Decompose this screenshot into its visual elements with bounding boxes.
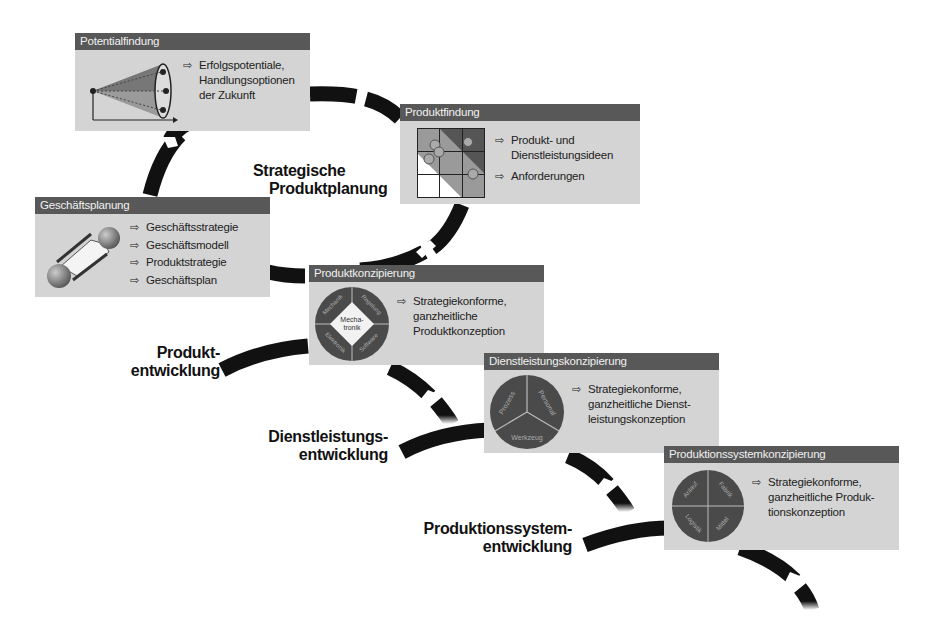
box-title: Geschäftsplanung xyxy=(35,197,270,214)
item-text: Handlungsoptionen xyxy=(199,73,295,88)
item-text: tionskonzeption xyxy=(768,505,845,520)
item-text: der Zukunft xyxy=(199,88,255,103)
box-produktfindung: Produktfindung ⇨Produkt- und Di xyxy=(400,104,640,204)
phase-label-dienstleistungsentwicklung: Dienstleistungs- entwicklung xyxy=(260,428,388,464)
phase-label-line2: Produktplanung xyxy=(253,180,387,198)
phase-label-line2: entwicklung xyxy=(120,362,220,380)
three-segment-circle-icon: Prozess Personal Werkzeug xyxy=(489,374,565,450)
box-items: ⇨Strategiekonforme, ganzheitliche Produk… xyxy=(397,294,507,339)
connected-spheres-icon xyxy=(43,224,123,290)
phase-label-line2: entwicklung xyxy=(420,538,572,556)
arrow-icon: ⇨ xyxy=(183,58,199,73)
arrow-icon: ⇨ xyxy=(572,382,588,397)
arrow-icon: ⇨ xyxy=(130,219,146,237)
box-geschaeftsplanung: Geschäftsplanung ⇨Geschäftsstrategie ⇨Ge… xyxy=(35,197,270,297)
item-text: Strategiekonforme, xyxy=(413,294,507,309)
item-text: Geschäftsplan xyxy=(146,272,217,290)
phase-label-strategische-produktplanung: Strategische Produktplanung xyxy=(253,162,387,198)
box-items: ⇨Produkt- und Dienstleistungsideen ⇨Anfo… xyxy=(495,133,613,184)
box-items: ⇨Erfolgspotentiale, Handlungsoptionen de… xyxy=(183,58,295,103)
item-text: Anforderungen xyxy=(511,169,585,184)
arrow-icon: ⇨ xyxy=(495,133,511,148)
item-text: Strategiekonforme, xyxy=(768,475,862,490)
box-items: ⇨Strategiekonforme, ganzheitliche Dienst… xyxy=(572,382,691,427)
box-potentialfindung: Potentialfindung ⇨Erfolgspotentiale, Han… xyxy=(75,33,310,131)
phase-label-line1: Produktionssystem- xyxy=(420,520,572,538)
item-text: Produktstrategie xyxy=(146,254,227,272)
cone-funnel-icon xyxy=(83,58,178,124)
arrow-icon: ⇨ xyxy=(752,475,768,490)
item-text: ganzheitliche xyxy=(413,309,478,324)
item-text: Geschäftsstrategie xyxy=(146,219,238,237)
arrow-icon: ⇨ xyxy=(130,254,146,272)
item-text: Dienstleistungsideen xyxy=(511,148,613,163)
box-items: ⇨Geschäftsstrategie ⇨Geschäftsmodell ⇨Pr… xyxy=(130,219,238,289)
phase-label-line1: Dienstleistungs- xyxy=(260,428,388,446)
arrow-icon: ⇨ xyxy=(130,272,146,290)
box-title: Dienstleistungskonzipierung xyxy=(484,353,719,370)
item-text: ganzheitliche Produk- xyxy=(768,490,874,505)
box-dienstleistungskonzipierung: Dienstleistungskonzipierung Prozess Pers… xyxy=(484,353,719,453)
box-title: Potentialfindung xyxy=(75,33,310,50)
box-title: Produktfindung xyxy=(400,104,640,121)
item-text: Produktkonzeption xyxy=(413,324,505,339)
phase-label-produktentwicklung: Produkt- entwicklung xyxy=(120,344,220,380)
phase-label-line1: Strategische xyxy=(253,162,387,180)
svg-text:tronik: tronik xyxy=(343,324,361,331)
arrow-icon: ⇨ xyxy=(397,294,413,309)
box-produktkonzipierung: Produktkonzipierung Mecha- tronik Mechan… xyxy=(309,265,544,365)
svg-text:Werkzeug: Werkzeug xyxy=(511,434,542,442)
box-title: Produktionssystemkonzipierung xyxy=(664,446,899,463)
svg-text:Mecha-: Mecha- xyxy=(340,316,364,323)
item-text: ganzheitliche Dienst- xyxy=(588,397,691,412)
phase-label-line1: Produkt- xyxy=(120,344,220,362)
arrow-icon: ⇨ xyxy=(130,237,146,255)
arrow-icon: ⇨ xyxy=(495,169,511,184)
phase-label-produktionssystementwicklung: Produktionssystem- entwicklung xyxy=(420,520,572,556)
item-text: leistungskonzeption xyxy=(588,412,685,427)
item-text: Erfolgspotentiale, xyxy=(199,58,284,73)
box-title: Produktkonzipierung xyxy=(309,265,544,282)
mechatronik-circle-icon: Mecha- tronik Mechanik Regelung Elektron… xyxy=(314,286,390,362)
item-text: Produkt- und xyxy=(511,133,574,148)
portfolio-matrix-icon xyxy=(417,128,485,198)
phase-label-line2: entwicklung xyxy=(260,446,388,464)
box-items: ⇨Strategiekonforme, ganzheitliche Produk… xyxy=(752,475,874,520)
item-text: Strategiekonforme, xyxy=(588,382,682,397)
item-text: Geschäftsmodell xyxy=(146,237,229,255)
four-segment-circle-icon: Anlauf Fabrik Logistik Mittel xyxy=(671,469,745,543)
box-produktionssystemkonzipierung: Produktionssystemkonzipierung Anlauf Fab… xyxy=(664,446,899,550)
